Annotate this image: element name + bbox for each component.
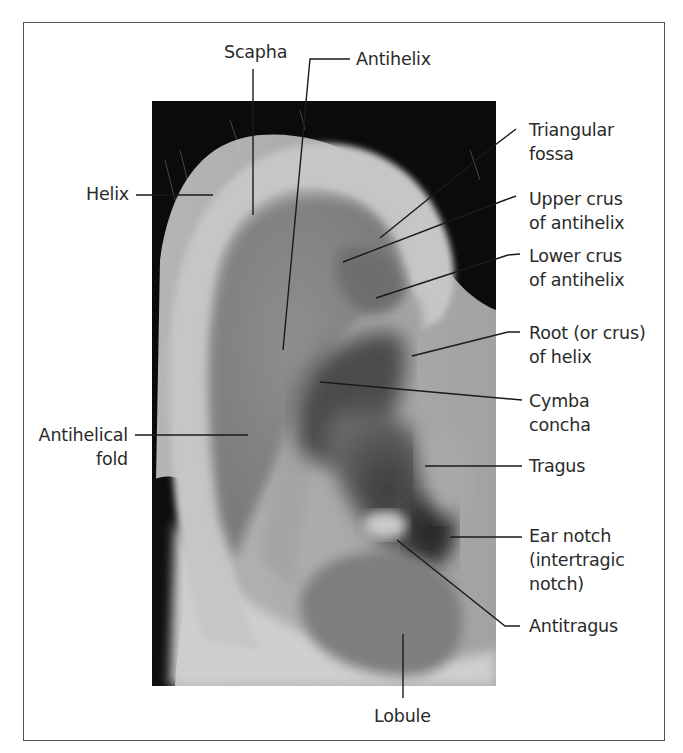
- label-antitragus: Antitragus: [529, 614, 618, 638]
- label-upper-crus-of-antihelix: Upper crus of antihelix: [529, 187, 625, 235]
- label-antihelical-fold: Antihelical fold: [30, 423, 128, 471]
- label-antihelix: Antihelix: [356, 47, 431, 71]
- label-ear-notch: Ear notch (intertragic notch): [529, 524, 625, 596]
- label-helix: Helix: [86, 182, 129, 206]
- label-lobule: Lobule: [374, 704, 431, 728]
- label-root-of-helix: Root (or crus) of helix: [529, 321, 646, 369]
- label-scapha: Scapha: [224, 40, 287, 64]
- label-lower-crus-of-antihelix: Lower crus of antihelix: [529, 244, 625, 292]
- label-triangular-fossa: Triangular fossa: [529, 118, 614, 166]
- label-cymba-concha: Cymba concha: [529, 389, 591, 437]
- label-tragus: Tragus: [529, 454, 585, 478]
- photo-content: [152, 101, 496, 700]
- ear-photograph: [0, 0, 683, 753]
